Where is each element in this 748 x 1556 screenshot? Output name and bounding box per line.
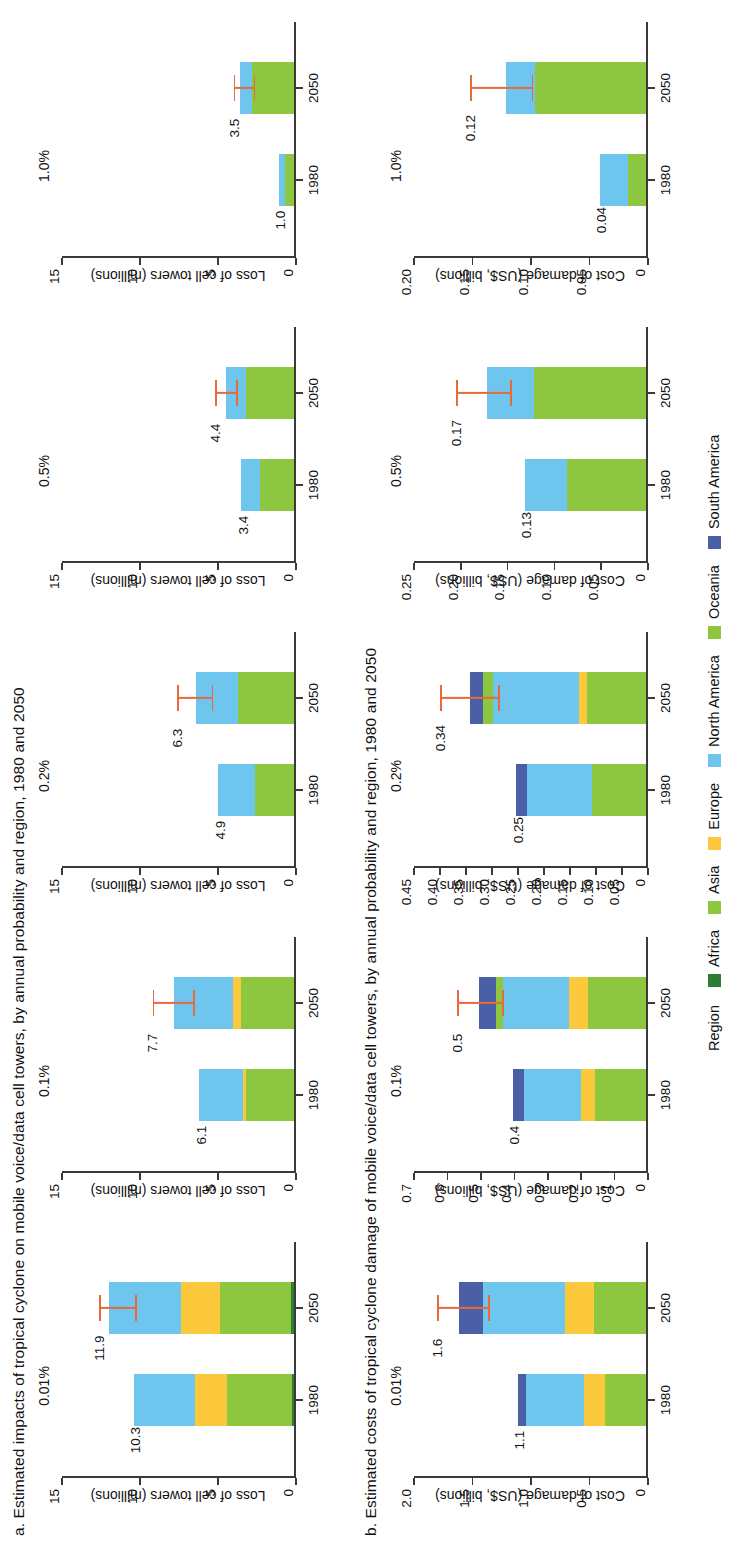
y-axis-title: Cost of damage (US$, billions): [400, 573, 660, 589]
y-axis-title: Loss of cell towers (millions): [48, 268, 308, 284]
bar-segment: [134, 1374, 196, 1426]
y-axis-tick: [569, 868, 571, 875]
legend-item-africa[interactable]: Africa: [706, 930, 722, 987]
bar-value-label: 6.3: [170, 729, 185, 748]
x-axis-tick: [296, 1307, 303, 1309]
y-axis-tick: [480, 1173, 482, 1180]
bar-segment: [569, 977, 587, 1029]
legend-item-south-america[interactable]: South America: [706, 435, 722, 549]
bar-value-label: 6.1: [194, 1126, 209, 1145]
stacked-bar: [525, 459, 647, 511]
bar-segment: [628, 154, 647, 206]
bar-value-label: 3.5: [227, 119, 242, 138]
bar-segment: [600, 154, 628, 206]
error-bar-line: [456, 392, 512, 394]
legend-item-oceania[interactable]: Oceania: [706, 565, 722, 639]
plot-area: 051015Loss of cell towers (millions)1980…: [62, 632, 296, 868]
bar-segment: [241, 977, 294, 1029]
stacked-bar: [516, 764, 646, 816]
y-axis-tick: [61, 1173, 63, 1180]
plot-area: 051015Loss of cell towers (millions)1980…: [62, 937, 296, 1173]
error-bar-line: [440, 697, 500, 699]
bar-segment: [525, 459, 567, 511]
error-bar-cap: [440, 685, 442, 711]
bar-segment: [584, 1374, 605, 1426]
y-axis-tick: [139, 1173, 141, 1180]
x-axis-tick-label: 1980: [306, 470, 321, 500]
legend-swatch-icon: [708, 837, 721, 850]
y-axis-tick: [647, 563, 649, 570]
bar-value-label: 0.13: [519, 512, 534, 538]
y-axis-tick: [472, 258, 474, 265]
chart-subplot: 0.2%051015Loss of cell towers (millions)…: [36, 626, 336, 926]
bar-segment: [285, 154, 294, 206]
y-axis-tick: [439, 868, 441, 875]
chart-subplot: 0.1%00.10.20.30.40.50.60.7Cost of damage…: [388, 931, 688, 1231]
bar-value-label: 0.17: [449, 420, 464, 446]
y-axis-tick: [217, 1173, 219, 1180]
x-axis-tick: [296, 789, 303, 791]
y-axis-tick: [530, 1478, 532, 1485]
x-axis-tick: [296, 1002, 303, 1004]
legend-swatch-icon: [708, 536, 721, 549]
bar-segment: [220, 1282, 292, 1334]
x-axis-tick: [296, 1399, 303, 1401]
y-axis-tick: [554, 563, 556, 570]
y-axis-tick: [413, 1478, 415, 1485]
bar-segment: [255, 764, 294, 816]
y-axis-tick: [491, 868, 493, 875]
y-axis-tick: [295, 1173, 297, 1180]
bar-segment: [581, 1069, 594, 1121]
stacked-bar: [241, 459, 294, 511]
bar-segment: [227, 1374, 293, 1426]
error-bar-cap: [532, 75, 534, 101]
bar-segment: [252, 62, 294, 114]
x-axis-tick-label: 1980: [306, 1385, 321, 1415]
error-bar-line: [215, 392, 238, 394]
legend-item-north-america[interactable]: North America: [706, 655, 722, 767]
bar-segment: [291, 1282, 294, 1334]
y-axis-tick: [589, 258, 591, 265]
y-axis-tick: [413, 868, 415, 875]
x-axis-tick-label: 1980: [306, 165, 321, 195]
x-axis-line: [294, 22, 296, 258]
y-axis-tick: [600, 563, 602, 570]
plot-area: 00.51.01.52.0Cost of damage (US$, billio…: [414, 1242, 648, 1478]
chart-subplot: 0.5%051015Loss of cell towers (millions)…: [36, 321, 336, 621]
y-axis-title: Cost of damage (US$, billions): [400, 1488, 660, 1504]
y-axis-tick: [295, 1478, 297, 1485]
y-axis-tick: [465, 868, 467, 875]
x-axis-tick-label: 1980: [658, 775, 673, 805]
y-axis-tick: [580, 1173, 582, 1180]
y-axis-tick: [460, 563, 462, 570]
x-axis-tick: [296, 392, 303, 394]
plot-area: 051015Loss of cell towers (millions)1980…: [62, 22, 296, 258]
error-bar-line: [470, 87, 533, 89]
x-axis-tick-label: 2050: [658, 73, 673, 103]
error-bar-cap: [193, 990, 195, 1016]
legend-label: South America: [706, 435, 722, 529]
y-axis-tick: [217, 1478, 219, 1485]
error-bar-line: [437, 1307, 490, 1309]
x-axis-tick-label: 2050: [658, 1293, 673, 1323]
x-axis-tick: [648, 484, 655, 486]
legend-item-europe[interactable]: Europe: [706, 783, 722, 850]
y-axis-tick: [295, 563, 297, 570]
bar-value-label: 0.04: [594, 207, 609, 233]
x-axis-line: [294, 632, 296, 868]
legend-item-asia[interactable]: Asia: [706, 866, 722, 914]
y-axis-title: Cost of damage (US$, billions): [400, 268, 660, 284]
panel-b: 0.01%00.51.01.52.0Cost of damage (US$, b…: [388, 20, 688, 1536]
x-axis-line: [646, 22, 648, 258]
y-axis-line: [62, 866, 296, 868]
y-axis-tick: [217, 563, 219, 570]
bar-value-label: 4.9: [213, 821, 228, 840]
y-axis-tick: [139, 258, 141, 265]
y-axis-tick: [647, 1173, 649, 1180]
y-axis-tick: [472, 1478, 474, 1485]
x-axis-tick: [296, 87, 303, 89]
bar-segment: [587, 672, 647, 724]
bar-value-label: 1.1: [512, 1431, 527, 1450]
legend-swatch-icon: [708, 974, 721, 987]
chart-subplot: 0.01%051015Loss of cell towers (millions…: [36, 1236, 336, 1536]
